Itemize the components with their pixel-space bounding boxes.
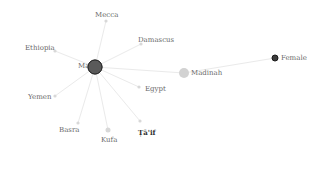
node-ma-center[interactable]	[88, 60, 102, 74]
center-node-layer	[0, 0, 319, 182]
